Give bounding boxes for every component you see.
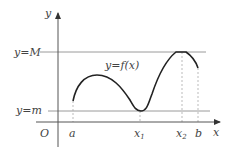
function-extrema-diagram: y x O y=M y=m y=f(x) a x1 x2 b	[0, 0, 239, 147]
tick-x1: x1	[134, 127, 145, 141]
curve-label: y=f(x)	[104, 59, 139, 72]
y-axis-label: y	[44, 7, 52, 20]
tick-a: a	[69, 127, 76, 140]
min-line-label: y=m	[15, 104, 42, 117]
origin-label: O	[40, 127, 49, 140]
tick-x2: x2	[176, 127, 187, 141]
tick-b: b	[195, 127, 202, 140]
max-line-label: y=M	[13, 46, 41, 59]
x-axis-label: x	[213, 126, 220, 139]
